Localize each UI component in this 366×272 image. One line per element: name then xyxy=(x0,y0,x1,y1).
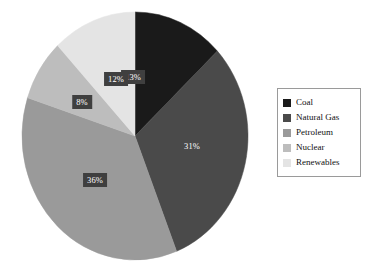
legend-color-swatch-icon xyxy=(283,144,291,152)
legend-entry[interactable]: Natural Gas xyxy=(283,110,355,125)
pie-slice-label: 12% xyxy=(104,72,128,86)
legend-entry[interactable]: Renewables xyxy=(283,155,355,170)
legend-entry-label: Coal xyxy=(296,98,313,107)
legend-entry-list: CoalNatural GasPetroleumNuclearRenewable… xyxy=(283,95,355,170)
pie-svg xyxy=(21,11,249,261)
legend-entry-label: Nuclear xyxy=(296,143,324,152)
pie-chart xyxy=(21,11,249,261)
chart-legend: CoalNatural GasPetroleumNuclearRenewable… xyxy=(277,88,361,177)
legend-entry-label: Natural Gas xyxy=(296,113,339,122)
legend-color-swatch-icon xyxy=(283,129,291,137)
legend-color-swatch-icon xyxy=(283,114,291,122)
pie-slice-label: 8% xyxy=(72,95,92,109)
pie-slice-label: 36% xyxy=(83,173,107,187)
legend-entry-label: Petroleum xyxy=(296,128,333,137)
chart-canvas: 13%31%36%8%12% CoalNatural GasPetroleumN… xyxy=(0,0,366,272)
legend-color-swatch-icon xyxy=(283,99,291,107)
legend-color-swatch-icon xyxy=(283,159,291,167)
pie-slice-label: 31% xyxy=(184,142,200,151)
legend-entry[interactable]: Coal xyxy=(283,95,355,110)
legend-entry[interactable]: Petroleum xyxy=(283,125,355,140)
pie-slice-group xyxy=(22,12,248,260)
legend-entry[interactable]: Nuclear xyxy=(283,140,355,155)
legend-entry-label: Renewables xyxy=(296,158,339,167)
